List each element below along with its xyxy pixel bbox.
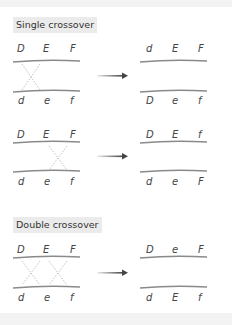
gene-label: F: [70, 129, 76, 140]
gene-label: f: [70, 176, 75, 187]
row-single-crossover-2: D E F d e f D E f d e F: [13, 129, 207, 187]
before-pair: D E F d e f: [13, 244, 80, 303]
gene-label: D: [17, 244, 25, 255]
chromosome-top: [13, 141, 80, 143]
chromosome-top: [140, 141, 207, 143]
crossover-diagram: D E F d e f d E F D e f D E: [0, 0, 232, 325]
gene-label: F: [70, 43, 76, 54]
gene-label: F: [198, 43, 204, 54]
gene-label: E: [43, 244, 50, 255]
row-single-crossover-1: D E F d e f d E F D e f: [13, 43, 207, 106]
gene-label: D: [146, 244, 154, 255]
gene-label: e: [172, 176, 178, 187]
gene-label: e: [172, 95, 178, 106]
gene-label: f: [198, 95, 203, 106]
after-pair: d E F D e f: [140, 43, 207, 106]
gene-label: d: [146, 43, 153, 54]
gene-label: e: [44, 176, 50, 187]
arrow-icon: [97, 153, 128, 160]
gene-label: d: [18, 95, 25, 106]
crossover-lines: [49, 146, 67, 170]
gene-label: d: [146, 176, 153, 187]
gene-label: D: [146, 95, 154, 106]
gene-label: E: [172, 292, 179, 303]
gene-label: f: [70, 95, 75, 106]
chromosome-bottom: [13, 90, 80, 92]
chromosome-bottom: [140, 170, 207, 172]
gene-label: E: [43, 129, 50, 140]
gene-label: E: [172, 129, 179, 140]
gene-label: d: [18, 176, 25, 187]
gene-label: F: [70, 244, 76, 255]
chromosome-top: [140, 256, 207, 258]
chromosome-top: [13, 60, 80, 62]
gene-label: E: [43, 43, 50, 54]
gene-label: D: [146, 129, 154, 140]
crossover-lines: [22, 64, 40, 90]
arrow-icon: [97, 270, 128, 277]
chromosome-top: [13, 256, 80, 258]
gene-label: e: [44, 95, 50, 106]
gene-label: F: [198, 244, 204, 255]
row-double-crossover: D E F d e f D e F d E f: [13, 244, 207, 303]
before-pair: D E F d e f: [13, 43, 80, 106]
chromosome-bottom: [13, 170, 80, 172]
gene-label: d: [146, 292, 153, 303]
gene-label: D: [17, 43, 25, 54]
arrow-icon: [97, 73, 128, 80]
gene-label: f: [198, 292, 203, 303]
chromosome-top: [140, 60, 207, 62]
gene-label: d: [18, 292, 25, 303]
after-pair: D E f d e F: [140, 129, 207, 187]
gene-label: f: [70, 292, 75, 303]
after-pair: D e F d E f: [140, 244, 207, 303]
gene-label: D: [17, 129, 25, 140]
chromosome-bottom: [140, 286, 207, 288]
chromosome-bottom: [140, 90, 207, 92]
gene-label: E: [172, 43, 179, 54]
crossover-lines: [22, 261, 67, 285]
before-pair: D E F d e f: [13, 129, 80, 187]
gene-label: e: [172, 244, 178, 255]
gene-label: f: [198, 129, 203, 140]
gene-label: e: [44, 292, 50, 303]
gene-label: F: [198, 176, 204, 187]
chromosome-bottom: [13, 286, 80, 288]
